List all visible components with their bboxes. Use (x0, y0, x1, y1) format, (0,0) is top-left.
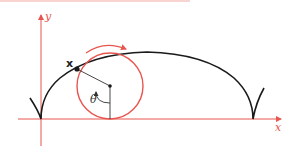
angle-arc (96, 92, 110, 103)
tracing-point (74, 66, 79, 71)
angle-label: θ (90, 93, 97, 106)
circle-center (108, 84, 112, 88)
axes: y x (18, 10, 282, 146)
y-axis-label: y (44, 10, 52, 23)
radius-to-point (77, 69, 110, 86)
cycloid-diagram: y x θ x (0, 0, 292, 156)
point-label: x (66, 57, 73, 70)
rotation-arrow (86, 45, 126, 53)
x-axis-label: x (275, 121, 282, 134)
